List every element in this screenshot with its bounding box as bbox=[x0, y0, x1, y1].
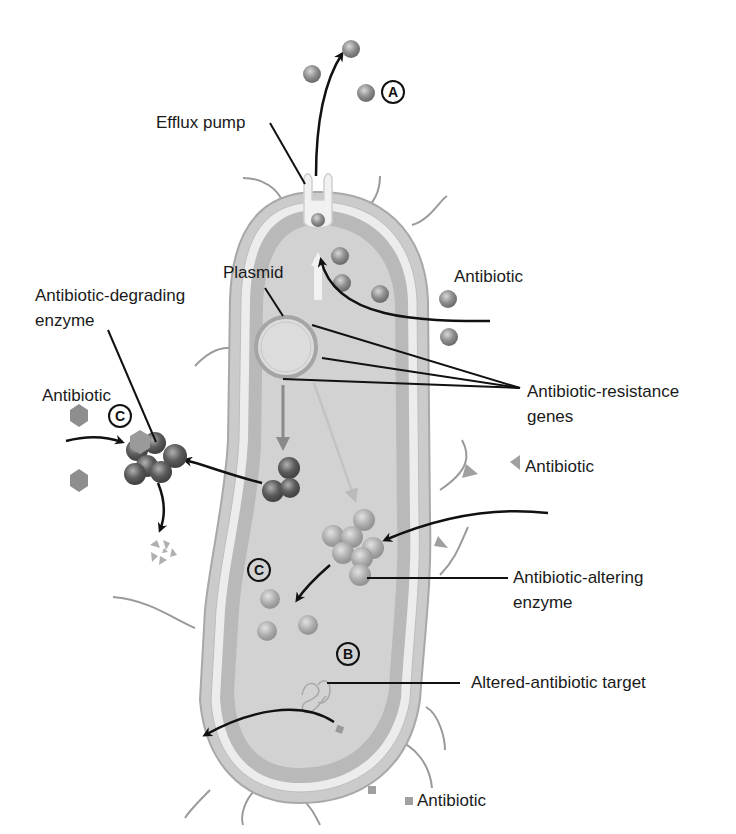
label-efflux-pump: Efflux pump bbox=[156, 112, 245, 133]
hexagon-antibiotic bbox=[70, 469, 88, 492]
degrading-enzyme-outer bbox=[124, 430, 187, 485]
triangle-antibiotic bbox=[510, 455, 520, 470]
efflux-pump bbox=[304, 174, 332, 228]
label-altering-enzyme-line2: enzyme bbox=[513, 592, 573, 613]
antibiotic-resistance-diagram: Efflux pump A Plasmid Antibiotic Antibio… bbox=[0, 0, 736, 834]
marker-a: A bbox=[381, 80, 405, 104]
hexagon-antibiotic bbox=[70, 404, 88, 427]
square-antibiotic bbox=[368, 786, 376, 794]
label-resistance-genes-line1: Antibiotic-resistance bbox=[527, 381, 679, 402]
label-plasmid: Plasmid bbox=[223, 262, 283, 283]
label-degrading-enzyme-line1: Antibiotic-degrading bbox=[35, 285, 185, 306]
label-altering-enzyme-line1: Antibiotic-altering bbox=[513, 567, 643, 588]
degraded-fragments bbox=[150, 540, 177, 565]
marker-c-inner: C bbox=[247, 558, 271, 582]
marker-b: B bbox=[336, 642, 360, 666]
label-antibiotic-left: Antibiotic bbox=[42, 385, 111, 406]
label-altered-target: Altered-antibiotic target bbox=[471, 672, 646, 693]
label-resistance-genes-line2: genes bbox=[527, 406, 573, 427]
marker-c-left: C bbox=[108, 404, 132, 428]
plasmid bbox=[256, 317, 316, 377]
label-degrading-enzyme-line2: enzyme bbox=[35, 310, 95, 331]
label-antibiotic-top-right: Antibiotic bbox=[454, 266, 523, 287]
label-antibiotic-triangle: Antibiotic bbox=[525, 456, 594, 477]
expelled-antibiotics bbox=[303, 40, 375, 102]
label-antibiotic-square: Antibiotic bbox=[417, 790, 486, 811]
square-antibiotic-legend bbox=[405, 797, 413, 805]
triangle-antibiotic bbox=[434, 536, 448, 548]
